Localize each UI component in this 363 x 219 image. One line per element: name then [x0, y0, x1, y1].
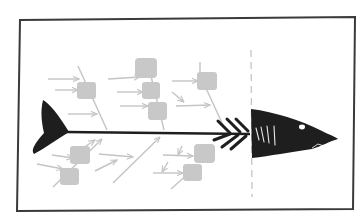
shark-tail-icon	[33, 100, 69, 154]
cause-box	[142, 82, 160, 99]
cause-box	[77, 82, 96, 99]
shark-eye-icon	[299, 125, 305, 130]
cause-box	[135, 58, 157, 78]
cause-box	[60, 168, 79, 185]
cause-group-bottom-middle	[95, 137, 160, 183]
cause-box	[183, 164, 202, 181]
fishbone-spine	[66, 132, 250, 134]
cause-box	[197, 72, 217, 90]
fishbone-diagram	[0, 0, 363, 219]
cause-group-top-middle	[108, 72, 164, 130]
cause-group-top-right	[172, 62, 223, 125]
cause-box	[70, 146, 90, 164]
shark-head-icon	[251, 109, 338, 158]
cause-box	[148, 102, 167, 120]
cause-box	[194, 144, 215, 163]
